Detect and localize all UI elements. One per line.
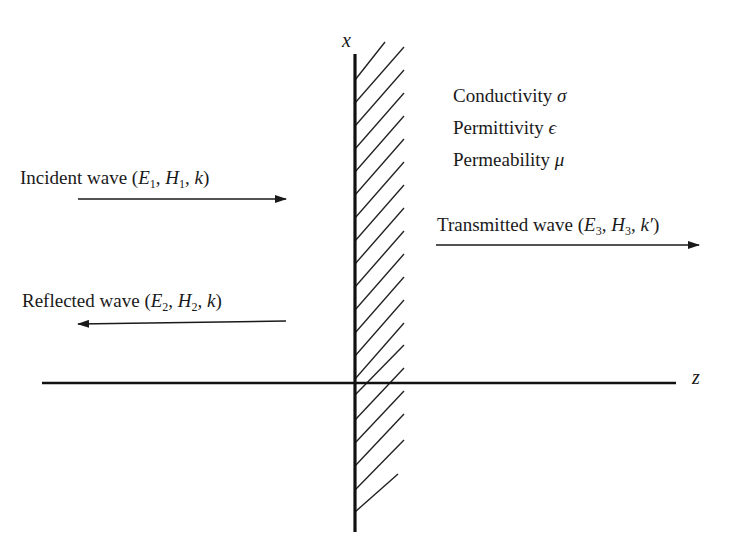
incident-wave-label: Incident wave (E1, H1, k) (20, 168, 209, 190)
boundary-hatching (355, 42, 404, 512)
subscript: 2 (192, 300, 198, 314)
x-axis-label: x (342, 30, 351, 50)
paren: ) (653, 214, 659, 235)
e-field: E (584, 214, 596, 235)
property-name: Conductivity (453, 85, 552, 106)
e-field: E (138, 167, 150, 188)
property-permeability: Permeability μ (453, 150, 564, 169)
wave-text: Incident wave ( (20, 167, 138, 188)
h-field: H (165, 167, 179, 188)
property-permittivity: Permittivity ϵ (453, 118, 556, 137)
reflected-wave-label: Reflected wave (E2, H2, k) (22, 291, 222, 313)
wave-text: Transmitted wave ( (437, 214, 584, 235)
epsilon-symbol: ϵ (549, 117, 557, 138)
reflected-wave-arrow (78, 321, 286, 324)
wave-number: k (207, 290, 215, 311)
e-field: E (151, 290, 163, 311)
property-name: Permeability (453, 149, 550, 170)
diagram-canvas (0, 0, 742, 553)
subscript: 1 (150, 177, 156, 191)
property-name: Permittivity (453, 117, 544, 138)
wave-number: k (195, 167, 203, 188)
wave-text: Reflected wave ( (22, 290, 151, 311)
subscript: 3 (625, 224, 631, 238)
paren: ) (216, 290, 222, 311)
h-field: H (611, 214, 625, 235)
subscript: 1 (179, 177, 185, 191)
subscript: 2 (162, 300, 168, 314)
h-field: H (178, 290, 192, 311)
z-axis-label: z (692, 367, 700, 387)
wave-number: k′ (640, 214, 653, 235)
mu-symbol: μ (555, 149, 565, 170)
paren: ) (203, 167, 209, 188)
sigma-symbol: σ (557, 85, 566, 106)
transmitted-wave-label: Transmitted wave (E3, H3, k′) (437, 215, 659, 237)
property-conductivity: Conductivity σ (453, 86, 566, 105)
subscript: 3 (596, 224, 602, 238)
